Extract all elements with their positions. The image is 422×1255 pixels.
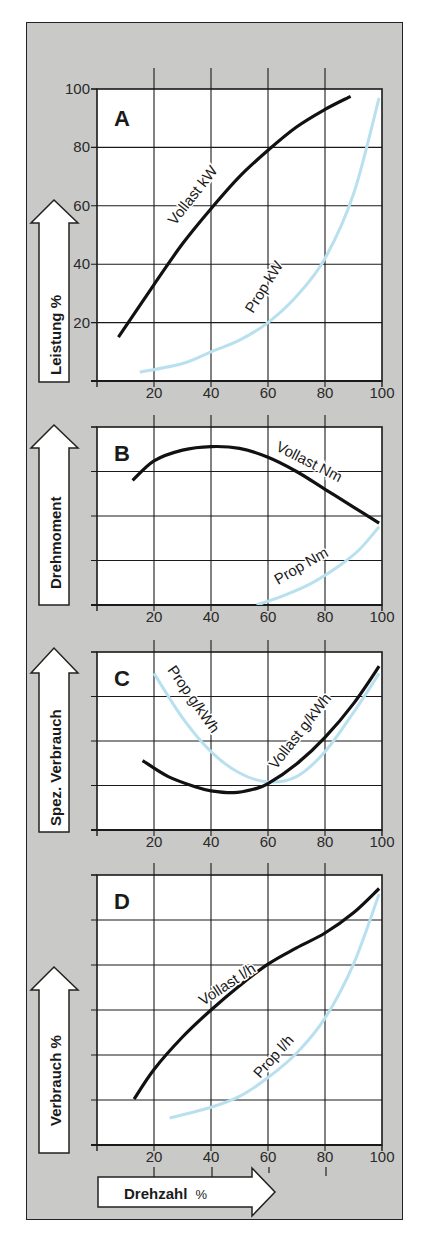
x-axis-minor-ticks xyxy=(154,1167,326,1177)
chart-b-drehmoment: B Vollast Nm Prop Nm 20406080100 xyxy=(91,415,395,625)
plot-area xyxy=(91,68,382,387)
panel-letter: A xyxy=(114,106,130,131)
x-tick-label: 60 xyxy=(260,1148,277,1165)
x-tick-label: 40 xyxy=(203,384,220,401)
y-axis-arrow-spez-verbrauch: Spez. Verbrauch xyxy=(31,648,78,832)
x-tick-label: 20 xyxy=(146,1148,163,1165)
y-tick-label: 60 xyxy=(73,197,90,214)
y-axis-arrow-leistung: Leistung % xyxy=(31,200,78,382)
panel-letter: C xyxy=(114,666,130,691)
engine-characteristics-figure: A Vollast kW Prop kW 20406080100 2040608… xyxy=(0,0,422,1255)
chart-d-verbrauch: D Vollast l/h Prop l/h 20406080100 xyxy=(91,863,395,1165)
x-tick-label: 20 xyxy=(146,608,163,625)
y-axis-label: Spez. Verbrauch xyxy=(47,709,64,826)
chart-a-leistung: A Vollast kW Prop kW 20406080100 2040608… xyxy=(65,68,395,401)
plot-area xyxy=(91,640,382,836)
x-tick-label: 100 xyxy=(369,1148,394,1165)
x-tick-label: 60 xyxy=(260,384,277,401)
y-axis-label: Leistung % xyxy=(47,295,64,375)
y-axis-arrow-drehmoment: Drehmoment xyxy=(31,425,78,605)
y-tick-label: 100 xyxy=(65,80,90,97)
x-tick-label: 80 xyxy=(317,384,334,401)
x-axis-arrow-drehzahl: Drehzahl % xyxy=(98,1167,326,1216)
x-tick-label: 80 xyxy=(317,608,334,625)
x-tick-labels: 20406080100 xyxy=(146,833,395,850)
y-axis-label: Drehmoment xyxy=(47,496,64,589)
y-tick-label: 20 xyxy=(73,314,90,331)
plot-background xyxy=(97,89,382,381)
x-tick-label: 100 xyxy=(369,608,394,625)
x-tick-label: 40 xyxy=(203,1148,220,1165)
x-tick-label: 80 xyxy=(317,1148,334,1165)
y-tick-label: 80 xyxy=(73,138,90,155)
x-tick-label: 40 xyxy=(203,608,220,625)
x-tick-label: 60 xyxy=(260,833,277,850)
x-axis-unit: % xyxy=(196,1187,208,1202)
panel-letter: D xyxy=(114,889,130,914)
x-tick-label: 80 xyxy=(317,833,334,850)
x-tick-label: 100 xyxy=(369,833,394,850)
x-tick-labels: 20406080100 xyxy=(146,608,395,625)
x-tick-label: 40 xyxy=(203,833,220,850)
x-axis-label-text: Drehzahl xyxy=(124,1185,187,1202)
y-tick-label: 40 xyxy=(73,255,90,272)
x-tick-label: 60 xyxy=(260,608,277,625)
x-tick-label: 20 xyxy=(146,833,163,850)
y-axis-arrow-verbrauch: Verbrauch % xyxy=(31,967,78,1153)
plot-area xyxy=(91,415,382,611)
y-axis-label: Verbrauch % xyxy=(47,1035,64,1126)
plot-area xyxy=(91,863,382,1151)
x-tick-labels: 20406080100 xyxy=(146,1148,395,1165)
x-tick-label: 20 xyxy=(146,384,163,401)
x-tick-labels: 20406080100 xyxy=(146,384,395,401)
chart-c-spez-verbrauch: C Prop g/kWh Vollast g/kWh 20406080100 xyxy=(91,640,395,850)
x-tick-label: 100 xyxy=(369,384,394,401)
panel-letter: B xyxy=(114,441,130,466)
x-axis-label: Drehzahl % xyxy=(124,1185,208,1202)
